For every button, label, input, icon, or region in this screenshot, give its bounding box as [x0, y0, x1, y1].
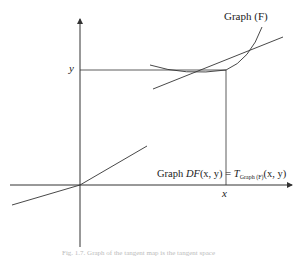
- eq-equals: =: [223, 168, 234, 179]
- tangent-line: [153, 37, 283, 89]
- graph-f-text: Graph (F): [224, 10, 268, 22]
- df-graph-line-upper: [80, 146, 147, 185]
- x-label: x: [222, 187, 227, 199]
- df-graph-line: [12, 185, 80, 205]
- eq-args2: (x, y): [263, 168, 286, 179]
- diagram-canvas: [0, 0, 300, 257]
- equation-label: Graph DF(x, y) = TGraph (F)(x, y): [157, 168, 286, 180]
- eq-sub: Graph (F): [240, 174, 264, 180]
- eq-df: DF: [186, 168, 200, 179]
- graph-f-curve: [150, 27, 262, 72]
- eq-prefix: Graph: [157, 168, 186, 179]
- graph-f-label: Graph (F): [224, 10, 268, 22]
- figure-caption: Fig. 1.7. Graph of the tangent map is th…: [62, 249, 215, 257]
- eq-args: (x, y): [200, 168, 223, 179]
- y-label: y: [69, 62, 74, 74]
